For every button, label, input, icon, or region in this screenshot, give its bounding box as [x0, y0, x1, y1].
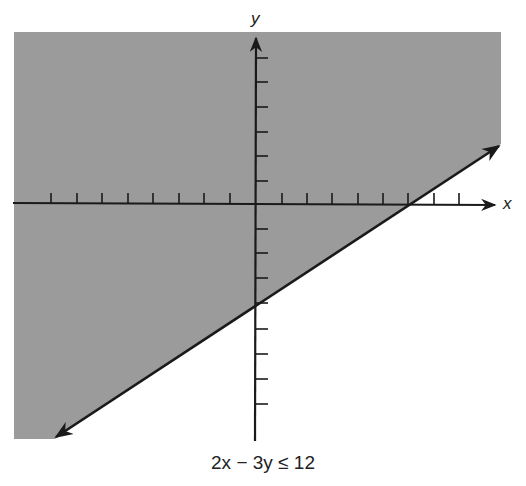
- inequality-graph: [0, 0, 526, 486]
- inequality-caption: 2x − 3y ≤ 12: [0, 452, 526, 474]
- y-axis-label: y: [251, 9, 260, 29]
- y-axis: [255, 38, 256, 441]
- x-axis-label: x: [503, 194, 512, 214]
- shaded-region: [14, 32, 501, 439]
